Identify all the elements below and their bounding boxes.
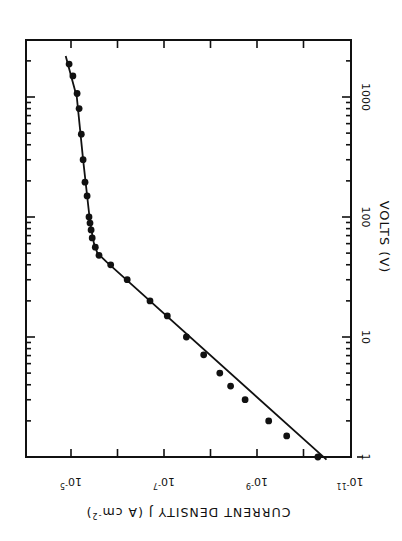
data-point [147, 298, 154, 305]
data-point [87, 220, 94, 227]
plot-frame [26, 40, 351, 457]
y-tick-label: 10-5 [60, 475, 82, 490]
data-point [76, 105, 83, 112]
fit-line [66, 56, 327, 460]
data-point [265, 418, 272, 425]
data-point [88, 227, 95, 234]
data-point [66, 61, 73, 68]
x-axis-label: VOLTS (V) [377, 201, 392, 274]
data-point [164, 313, 171, 320]
data-point [78, 131, 85, 138]
data-point [124, 276, 131, 283]
data-point [70, 73, 77, 80]
y-axis-label: CURRENT DENSITY J (A cm-2) [86, 505, 291, 520]
x-tick-label: 1 [359, 454, 372, 461]
data-point [80, 156, 87, 163]
axis-labels: 1101001000VOLTS (V)10-1110-910-710-5CURR… [60, 83, 392, 520]
data-point [89, 235, 96, 242]
data-point [216, 370, 223, 377]
data-point [96, 252, 103, 259]
data-point [86, 214, 93, 221]
data-point [84, 193, 91, 200]
data-point [107, 261, 114, 268]
y-tick-label: 10-9 [246, 475, 268, 490]
chart: 1101001000VOLTS (V)10-1110-910-710-5CURR… [0, 0, 402, 541]
data-point [227, 383, 234, 390]
data-point [74, 90, 81, 97]
y-tick-label: 10-11 [336, 475, 363, 490]
data-point [242, 396, 249, 403]
y-tick-label: 10-7 [153, 475, 175, 490]
data-point [283, 433, 290, 440]
x-tick-label: 100 [359, 207, 372, 228]
data-point [92, 244, 99, 251]
data-point [82, 179, 89, 186]
data-point [200, 351, 207, 358]
data-point [183, 334, 190, 341]
data-point [315, 454, 322, 461]
x-tick-label: 10 [359, 330, 372, 344]
x-tick-label: 1000 [359, 83, 372, 111]
